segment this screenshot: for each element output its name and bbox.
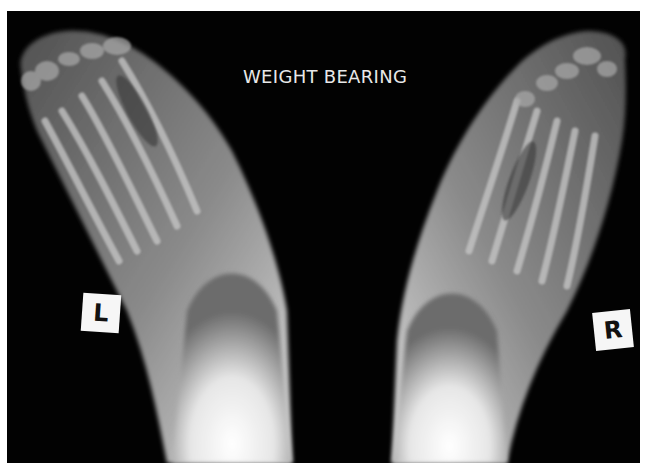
caption-weight-bearing: WEIGHT BEARING [243, 66, 443, 87]
right-side-marker: R [592, 309, 634, 351]
left-side-marker: L [81, 293, 122, 334]
